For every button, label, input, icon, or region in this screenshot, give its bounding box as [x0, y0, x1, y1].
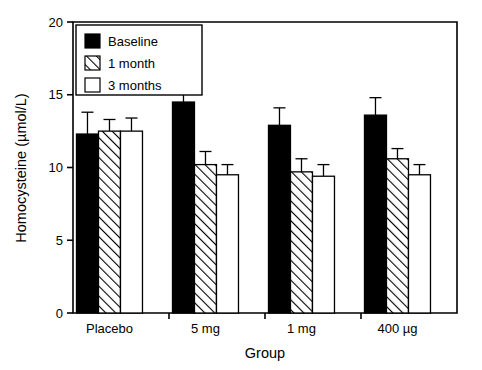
y-tick-label: 15: [49, 87, 63, 102]
bar-chart: 05101520 Placebo5 mg1 mg400 µg Baseline1…: [0, 0, 482, 370]
y-tick-label: 10: [49, 160, 63, 175]
bar-3-months-1-mg: [312, 176, 334, 313]
bar-1-month-5-mg: [194, 165, 216, 313]
legend-label-1-month: 1 month: [108, 56, 155, 71]
bar-1-month-400-µg: [386, 159, 408, 313]
legend-swatch-3-months: [85, 78, 100, 92]
legend-swatch-1-month: [85, 56, 100, 70]
legend-label-3-months: 3 months: [108, 78, 162, 93]
y-axis-title: Homocysteine (µmol/L): [13, 93, 29, 242]
legend-swatch-baseline: [85, 34, 100, 48]
bar-baseline-placebo: [76, 134, 98, 313]
x-axis-title: Group: [245, 345, 285, 361]
x-tick-label: 400 µg: [377, 321, 417, 336]
bar-series-group: [76, 102, 430, 313]
y-tick-label: 20: [49, 15, 63, 30]
x-tick-label: 5 mg: [191, 321, 220, 336]
bar-baseline-1-mg: [268, 125, 290, 313]
bar-1-month-1-mg: [290, 172, 312, 313]
bar-baseline-5-mg: [172, 102, 194, 313]
chart-legend: Baseline1 month3 months: [76, 25, 202, 95]
bar-3-months-placebo: [120, 131, 142, 313]
bar-3-months-400-µg: [408, 175, 430, 313]
bar-1-month-placebo: [98, 131, 120, 313]
bar-baseline-400-µg: [364, 115, 386, 313]
bar-3-months-5-mg: [216, 175, 238, 313]
x-tick-label: 1 mg: [287, 321, 316, 336]
x-tick-label: Placebo: [86, 321, 133, 336]
y-tick-label: 0: [56, 306, 63, 321]
y-tick-label: 5: [56, 233, 63, 248]
chart-figure: 05101520 Placebo5 mg1 mg400 µg Baseline1…: [0, 0, 482, 370]
legend-label-baseline: Baseline: [108, 34, 158, 49]
y-axis-ticks: 05101520: [49, 15, 73, 321]
x-axis-ticks: Placebo5 mg1 mg400 µg: [86, 313, 418, 336]
